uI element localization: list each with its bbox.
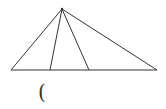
apex-point	[61, 8, 63, 10]
side-left	[11, 9, 62, 70]
side-right	[62, 9, 157, 70]
caption-parenthesis: (	[38, 82, 46, 102]
cevian-1	[50, 9, 62, 70]
triangle-diagram	[0, 0, 166, 109]
